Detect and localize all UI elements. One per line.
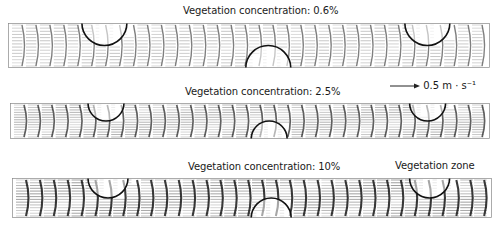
scale-arrow-icon xyxy=(390,81,420,92)
vegetation-zone-circle xyxy=(246,46,291,69)
vegetation-zone-label: Vegetation zone xyxy=(395,160,474,171)
velocity-field-panel-2-5 xyxy=(10,103,490,139)
vegetation-zone-circle xyxy=(251,121,287,139)
velocity-field-panel-10 xyxy=(12,178,492,218)
scale-label: 0.5 m · s⁻¹ xyxy=(423,80,476,91)
panel-title-2-5: Vegetation concentration: 2.5% xyxy=(185,86,340,97)
vegetation-zone-circle xyxy=(410,178,450,198)
velocity-field-panel-0-6 xyxy=(8,23,490,68)
panel-title-10: Vegetation concentration: 10% xyxy=(188,161,340,172)
vegetation-zone-circle xyxy=(88,178,128,198)
panel-title-0-6: Vegetation concentration: 0.6% xyxy=(183,5,338,16)
scale-bar: 0.5 m · s⁻¹ xyxy=(390,80,476,92)
vegetation-zone-circle xyxy=(88,103,124,121)
vegetation-zone-circle xyxy=(251,198,291,218)
vegetation-zone-circle xyxy=(82,23,127,46)
